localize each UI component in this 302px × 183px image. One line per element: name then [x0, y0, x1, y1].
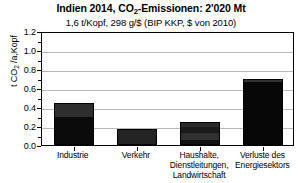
y-axis-tick-label: 0.4 — [2, 104, 36, 113]
plot-area — [41, 32, 294, 146]
x-axis-label: Verluste desEnergiesektors — [231, 150, 294, 170]
y-axis-tick-label: 0.2 — [2, 123, 36, 132]
y-axis-tick-label: 1.2 — [2, 28, 36, 37]
x-axis-label-line: Haushalte, — [180, 150, 219, 160]
bar — [54, 103, 94, 145]
bar — [243, 79, 283, 145]
x-axis-label: Industrie — [41, 150, 104, 160]
x-axis-label-line: Landwirtschaft — [173, 170, 226, 180]
chart-title: Indien 2014, CO2-Emissionen: 2'020 Mt — [0, 2, 302, 16]
chart-title-main: Indien 2014, CO — [56, 2, 133, 14]
bar-segment — [54, 117, 94, 146]
bar-segment — [243, 79, 283, 82]
chart-title-rest: -Emissionen: 2'020 Mt — [138, 2, 246, 14]
bar-segment — [180, 127, 220, 133]
x-axis-labels: IndustrieVerkehrHaushalte,Dienstleitunge… — [41, 150, 294, 183]
y-axis-tick-mark — [37, 146, 41, 147]
x-axis-label: Haushalte,Dienstleitungen,Landwirtschaft — [168, 150, 231, 180]
x-axis-label-line: Industrie — [57, 150, 88, 160]
bar-segment — [243, 82, 283, 145]
chart-subtitle: 1,6 t/Kopf, 298 g/$ (BIP KKP, $ von 2010… — [0, 17, 302, 29]
x-axis-label-line: Energiesektors — [235, 160, 290, 170]
bar — [117, 129, 157, 145]
x-axis-label-line: Verluste des — [240, 150, 285, 160]
x-axis-label-line: Verkehr — [122, 150, 150, 160]
bar — [180, 122, 220, 145]
y-axis-tick-label: 0.0 — [2, 142, 36, 151]
y-axis-tick-label: 0.6 — [2, 85, 36, 94]
bar-segment — [180, 122, 220, 127]
bar-segment — [180, 140, 220, 145]
bar-segment — [180, 133, 220, 141]
chart-title-subscript: 2 — [134, 7, 138, 16]
bar-segment — [54, 103, 94, 116]
x-axis-label-line: Dienstleitungen, — [170, 160, 229, 170]
y-axis-tick-label: 0.8 — [2, 66, 36, 75]
y-axis-tick-label: 1.0 — [2, 47, 36, 56]
bar-segment — [117, 129, 157, 145]
x-axis-label: Verkehr — [104, 150, 167, 160]
bar-series — [42, 33, 293, 145]
chart-container: Indien 2014, CO2-Emissionen: 2'020 Mt 1,… — [0, 0, 302, 183]
